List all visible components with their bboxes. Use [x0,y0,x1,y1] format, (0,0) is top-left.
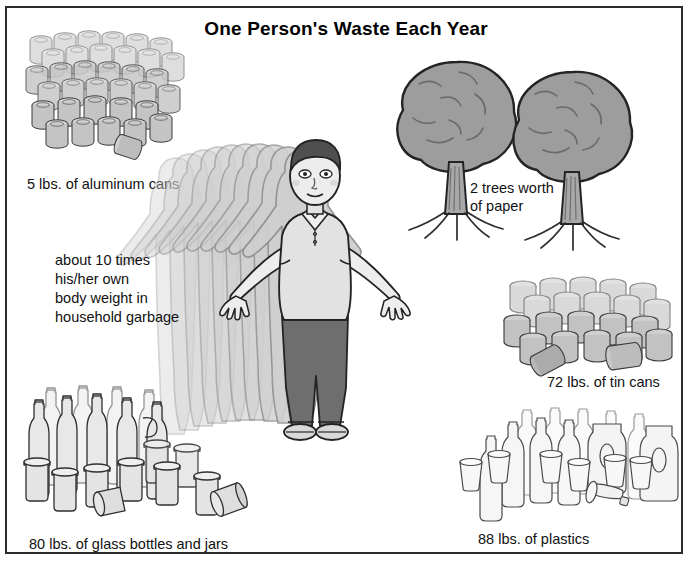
tin-cans-label: 72 lbs. of tin cans [547,374,660,391]
paper-trees-label: 2 trees worth of paper [470,179,554,215]
household-garbage-label: about 10 times his/her own body weight i… [55,251,179,326]
glass-illustration [21,386,271,521]
tin-cans-illustration [499,276,689,381]
plastics-label: 88 lbs. of plastics [478,531,589,548]
infographic-poster: One Person's Waste Each Year [0,0,695,567]
plastics-illustration [455,406,690,521]
poster-frame: One Person's Waste Each Year [5,6,683,554]
glass-label: 80 lbs. of glass bottles and jars [29,536,228,553]
